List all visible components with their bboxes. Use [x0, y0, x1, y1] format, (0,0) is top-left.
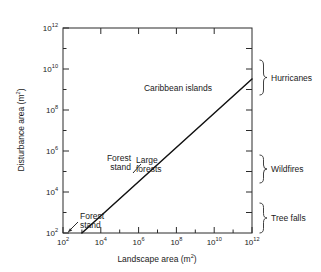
x-tick-exp-2: 4 — [104, 236, 107, 242]
y-axis-title-tail: ) — [16, 88, 26, 91]
annotation-forest-stand-upper-line2: stand — [110, 162, 131, 172]
annotation-large-forests: Large forests — [136, 155, 162, 174]
y-tick-exp-10: 12 — [52, 22, 58, 28]
y-tick-exp-4: 6 — [55, 145, 58, 151]
y-tick-exp-8: 10 — [52, 63, 58, 69]
bracket-label-wildfires: Wildfires — [271, 164, 304, 174]
y-tick-exp-6: 8 — [55, 104, 58, 110]
x-axis-title: Landscape area (m2) — [117, 253, 196, 264]
figure-container: 102 104 106 108 1010 1012 102 104 106 10… — [0, 0, 321, 272]
bracket-label-hurricanes: Hurricanes — [271, 73, 312, 83]
x-tick-exp-6: 8 — [179, 236, 182, 242]
x-tick-exp-8: 10 — [216, 236, 222, 242]
bracket-label-tree-falls: Tree falls — [271, 213, 306, 223]
y-tick-exp-2: 4 — [55, 186, 58, 192]
annotation-forest-stand-upper: Forest stand — [107, 153, 132, 172]
annotation-caribbean-islands: Caribbean islands — [144, 83, 212, 93]
annotation-forest-stand-lower-line2: stand — [80, 220, 101, 230]
y-axis-title-text: Disturbance area (m — [16, 94, 26, 171]
x-tick-exp-0: 2 — [66, 236, 69, 242]
x-tick-exp-4: 6 — [141, 236, 144, 242]
x-axis-title-tail: ) — [194, 254, 197, 264]
x-axis-title-text: Landscape area (m — [117, 254, 190, 264]
log-log-chart: 102 104 106 108 1010 1012 102 104 106 10… — [0, 0, 321, 272]
y-axis-title: Disturbance area (m2) — [15, 88, 26, 171]
x-tick-exp-10: 12 — [253, 236, 259, 242]
y-tick-exp-0: 2 — [55, 227, 58, 233]
